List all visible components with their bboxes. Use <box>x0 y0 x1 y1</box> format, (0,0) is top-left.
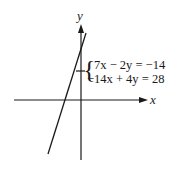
equation-1: 7x − 2y = −14 <box>94 59 165 72</box>
x-axis-label: x <box>150 92 156 108</box>
y-axis-arrow-icon <box>78 24 84 33</box>
equation-2: −14x + 4y = 28 <box>87 73 164 86</box>
x-axis-arrow-icon <box>139 97 148 103</box>
coordinate-diagram: y x { 7x − 2y = −14 −14x + 4y = 28 <box>0 0 186 173</box>
axes-graph <box>0 0 186 173</box>
y-axis-label: y <box>77 8 83 24</box>
solution-line <box>48 33 86 154</box>
